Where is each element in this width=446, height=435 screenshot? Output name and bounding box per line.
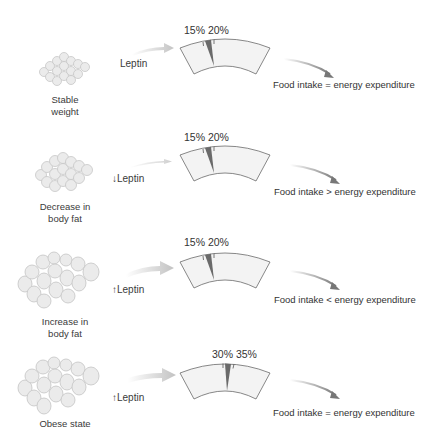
adiposity-gauge [178, 361, 272, 403]
gauge-percent-labels: 15% 20% [184, 24, 229, 36]
fat-cells-icon [16, 250, 102, 310]
outcome-text: Food intake < energy expenditure [274, 294, 416, 305]
gauge-percent-labels: 15% 20% [184, 236, 229, 248]
leptin-label: ↑Leptin [112, 392, 144, 403]
leptin-signal-arrow-icon [126, 368, 178, 390]
outcome-arrow-icon [288, 377, 344, 403]
outcome-text: Food intake = energy expenditure [273, 79, 415, 90]
outcome-text: Food intake > energy expenditure [274, 186, 416, 197]
leptin-label: ↓Leptin [112, 173, 144, 184]
leptin-signal-arrow-icon [124, 260, 176, 282]
adiposity-gauge [178, 250, 272, 292]
leptin-signal-arrow-icon [128, 155, 174, 171]
adiposity-gauge [178, 36, 272, 78]
leptin-signal-arrow-icon [130, 40, 176, 60]
outcome-arrow-icon [288, 162, 344, 188]
adiposity-gauge [178, 143, 272, 185]
leptin-label: ↑Leptin [112, 284, 144, 295]
state-label: Decrease in body fat [25, 201, 105, 225]
state-label: Increase in body fat [25, 316, 105, 340]
state-label: Stable weight [30, 94, 100, 118]
outcome-text: Food intake = energy expenditure [273, 407, 415, 418]
gauge-percent-labels: 15% 20% [184, 131, 229, 143]
fat-cells-icon [34, 153, 96, 193]
outcome-arrow-icon [288, 268, 344, 294]
gauge-percent-labels: 30% 35% [212, 348, 257, 360]
fat-cells-icon [38, 52, 92, 86]
fat-cells-icon [16, 356, 102, 416]
state-label: Obese state [25, 418, 105, 430]
